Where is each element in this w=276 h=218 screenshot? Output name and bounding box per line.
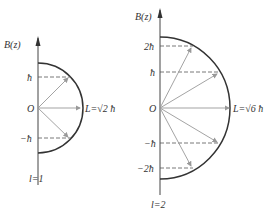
tick-label-h: ħ bbox=[150, 67, 155, 78]
tick-label-neg-2h: −2ħ bbox=[137, 163, 154, 174]
tick-label-2h: 2ħ bbox=[144, 41, 154, 52]
quantum-number-label: l=2 bbox=[151, 199, 166, 210]
z-axis-arrow-icon bbox=[158, 8, 163, 18]
quantum-number-label: l=1 bbox=[29, 173, 44, 184]
magnitude-label: L=√2 ħ bbox=[84, 103, 115, 114]
vector-m-1 bbox=[160, 108, 217, 142]
vector-m-1 bbox=[38, 108, 68, 137]
origin-label: O bbox=[149, 103, 156, 114]
angular-momentum-diagram: B(z) ħ −ħ O L=√2 ħ l=1 B(z) 2ħ ħ −ħ bbox=[0, 0, 276, 218]
z-axis-arrow-icon bbox=[36, 36, 41, 46]
origin-label: O bbox=[27, 103, 34, 114]
axis-label: B(z) bbox=[135, 11, 152, 23]
diagram-l1: B(z) ħ −ħ O L=√2 ħ l=1 bbox=[4, 36, 115, 185]
tick-label-neg-h: −ħ bbox=[144, 138, 156, 149]
vector-m-2 bbox=[160, 108, 191, 166]
axis-label: B(z) bbox=[4, 39, 21, 51]
tick-label-neg-h: −ħ bbox=[20, 133, 32, 144]
vector-m1 bbox=[38, 78, 68, 108]
tick-label-h: ħ bbox=[27, 72, 32, 83]
magnitude-label: L=√6 ħ bbox=[232, 103, 263, 114]
diagram-l2: B(z) 2ħ ħ −ħ −2ħ O L=√6 ħ l=2 bbox=[135, 8, 263, 210]
